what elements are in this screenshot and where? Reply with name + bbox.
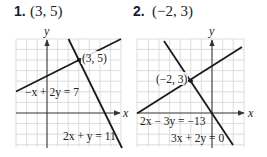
graph-1-equation-a: −x + 2y = 7 [25,86,79,99]
graph-1-y-label: y [43,24,50,38]
graph-1-intersection-point [77,58,81,62]
graph-2-y-label: y [208,24,215,38]
graph-2: x y (−2, 3) 2x − 3y = −13 3x + 2y = 0 [137,24,254,148]
graph-2-x-label: x [247,106,254,120]
graph-2-intersection-label: (−2, 3) [156,73,188,86]
graph-2-equation-b: 3x + 2y = 0 [171,132,224,145]
graph-1-intersection-label: (3, 5) [82,52,107,65]
graph-1-equation-b: 2x + y = 11 [63,130,116,143]
graph-2-intersection-point [189,79,193,83]
graphs-canvas: x y (3, 5) −x + 2y = 7 2x + y = 11 [0,0,267,157]
graph-1-x-label: x [122,106,129,120]
graph-1: x y (3, 5) −x + 2y = 7 2x + y = 11 [16,24,129,148]
graph-2-equation-a: 2x − 3y = −13 [140,115,206,128]
